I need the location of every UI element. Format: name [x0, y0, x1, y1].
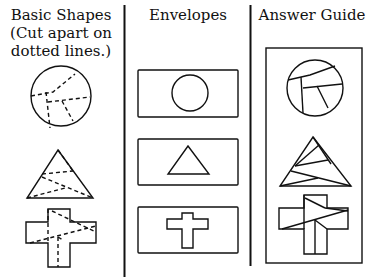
- answer-circle: [287, 60, 343, 116]
- basic-cross-shape: [26, 209, 96, 267]
- answer-cross: [279, 195, 348, 254]
- worksheet-drawing: [0, 0, 372, 277]
- basic-circle-shape: [31, 66, 91, 128]
- answer-triangle: [280, 137, 351, 186]
- envelope-triangle: [138, 139, 238, 185]
- answer-guide-frame: [266, 48, 362, 263]
- envelope-circle: [138, 70, 238, 117]
- envelope-cross: [138, 207, 238, 253]
- basic-triangle-shape: [27, 150, 93, 198]
